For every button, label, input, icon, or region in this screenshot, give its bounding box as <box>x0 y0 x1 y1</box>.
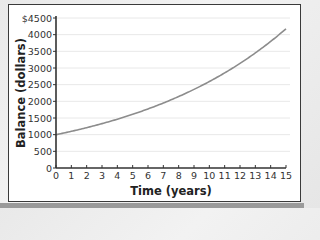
x-tick-label: 5 <box>130 170 136 181</box>
x-tick-label: 2 <box>84 170 90 181</box>
x-tick-label: 15 <box>280 170 292 181</box>
balance-curve <box>56 29 286 135</box>
y-tick-label: 0 <box>46 163 52 174</box>
x-axis-title: Time (years) <box>130 184 212 198</box>
y-tick-label: 500 <box>34 146 52 157</box>
x-tick-label: 9 <box>191 170 197 181</box>
x-tick-label: 3 <box>99 170 105 181</box>
gridlines <box>56 18 290 151</box>
x-tick-label: 14 <box>265 170 277 181</box>
axes <box>56 16 286 168</box>
y-tick-label: $4500 <box>22 13 52 24</box>
y-tick-label: 2500 <box>28 79 52 90</box>
line-chart: 05001000150020002500300035004000$4500 01… <box>0 0 304 208</box>
y-tick-label: 1000 <box>28 129 52 140</box>
y-tick-label: 1500 <box>28 113 52 124</box>
x-tick-label: 8 <box>176 170 182 181</box>
x-tick-label: 0 <box>53 170 59 181</box>
x-tick-label: 7 <box>160 170 166 181</box>
x-tick-label: 11 <box>219 170 231 181</box>
x-tick-label: 6 <box>145 170 151 181</box>
x-tick-label: 10 <box>203 170 215 181</box>
x-tick-label: 4 <box>114 170 120 181</box>
y-tick-label: 3500 <box>28 46 52 57</box>
y-tick-label: 4000 <box>28 29 52 40</box>
y-tick-label: 2000 <box>28 96 52 107</box>
y-tick-label: 3000 <box>28 63 52 74</box>
x-tick-label: 13 <box>249 170 261 181</box>
x-tick-label: 12 <box>234 170 246 181</box>
x-tick-label: 1 <box>68 170 74 181</box>
y-axis-title: Balance (dollars) <box>14 38 28 148</box>
